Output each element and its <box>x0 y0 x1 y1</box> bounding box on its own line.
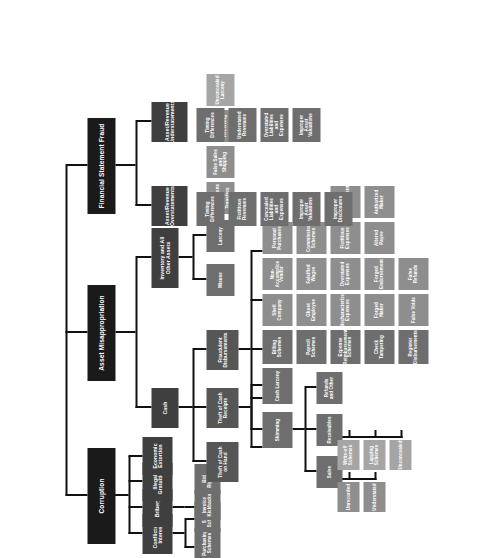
diagram-stage: Corruption Asset Misappropriation Financ… <box>0 0 479 558</box>
edge-fd-c4 <box>250 299 262 301</box>
leaf-commission-schemes[interactable]: Commission Schemes <box>296 222 326 254</box>
edge-tocr-stem <box>238 406 250 408</box>
leaf-os-fictitious-revenues[interactable]: Fictitious Revenues <box>228 192 256 226</box>
edge-cash-c2 <box>192 406 206 408</box>
edge-inv-bar <box>192 236 194 280</box>
category-corruption[interactable]: Corruption <box>87 448 115 544</box>
leaf-altered-payee[interactable]: Altered Payee <box>364 222 394 254</box>
edge-corr-c1 <box>128 532 142 534</box>
leaf-us-improper-asset-valuations[interactable]: Improper Asset Valuations <box>292 108 320 142</box>
edge-coi-l1 <box>184 546 194 548</box>
leaf-false-refunds[interactable]: False Refunds <box>398 258 428 290</box>
leaf-sales-unrecorded[interactable]: Unrecorded <box>337 482 359 512</box>
node-billing-schemes-main[interactable]: Billing Schemes <box>262 330 292 364</box>
edge-fd-c1 <box>250 446 262 448</box>
edge-skim-stem <box>292 428 304 430</box>
edge-fd-c3 <box>250 348 262 350</box>
edge-skim-c2 <box>304 428 316 430</box>
node-register-disbursements[interactable]: Register Disbursements <box>398 330 428 364</box>
node-cash-larceny[interactable]: Cash Larceny <box>262 368 292 404</box>
edge-inv-stem <box>178 256 192 258</box>
edge-am-inv <box>135 256 151 258</box>
leaf-forged-endorsement[interactable]: Forged Endorsement <box>364 258 394 290</box>
leaf-fictitious-expenses[interactable]: Fictitious Expenses <box>330 222 360 254</box>
leaf-os-timing-differences[interactable]: Timing Differences <box>196 192 224 226</box>
node-theft-of-cash-on-hand[interactable]: Theft of Cash on Hand <box>206 442 238 482</box>
leaf-false-voids[interactable]: False Voids <box>398 294 428 326</box>
edge-coi-stem <box>172 532 184 534</box>
edge-bribery-l1 <box>184 506 194 508</box>
leaf-us-understated-revenues[interactable]: Understated Revenues <box>228 108 256 142</box>
leaf-sales-understated[interactable]: Understated <box>363 482 385 512</box>
leaf-personal-purchases[interactable]: Personal Purchases <box>262 222 292 254</box>
edge-recv-link1 <box>348 430 350 438</box>
node-asset-revenue-understatements[interactable]: Asset/Revenue Understatements <box>151 102 187 142</box>
category-asset-misappropriation[interactable]: Asset Misappropriation <box>87 285 115 381</box>
edge-corr-c4 <box>128 455 142 457</box>
leaf-purchasing-schemes[interactable]: Purchasing Schemes <box>194 528 220 558</box>
edge-fd-c5 <box>250 250 262 252</box>
edge-am-stem2 <box>115 331 135 333</box>
edge-assetmis-stem <box>65 331 87 333</box>
edge-recv-link2 <box>374 430 376 438</box>
leaf-non-accomplice-vendor[interactable]: Non-Accomplice Vendor <box>262 258 292 290</box>
category-financial-statement-fraud[interactable]: Financial Statement Fraud <box>87 118 115 214</box>
edge-fsf-stem <box>65 164 87 166</box>
edge-recv-link3 <box>400 430 402 438</box>
node-asset-revenue-overstatements[interactable]: Asset/Revenue Overstatements <box>151 186 187 226</box>
edge-fd-stem <box>238 348 250 350</box>
edge-fd-c2 <box>250 397 262 399</box>
edge-skim-c1 <box>304 470 316 472</box>
leaf-authorized-maker[interactable]: Authorized Maker <box>364 186 394 218</box>
fraud-tree-canvas: Corruption Asset Misappropriation Financ… <box>0 0 479 558</box>
leaf-overstated-expenses[interactable]: Overstated Expenses <box>330 258 360 290</box>
edge-fsf-c2 <box>135 120 151 122</box>
edge-cash-c3 <box>192 348 206 350</box>
edge-inv-c2 <box>192 234 206 236</box>
edge-corr-bar <box>128 456 130 534</box>
edge-skim-c3 <box>304 386 316 388</box>
leaf-invoice-kickbacks[interactable]: Invoice Kickbacks <box>194 490 220 520</box>
node-fraudulent-disbursements[interactable]: Fraudulent Disbursements <box>206 330 238 370</box>
edge-fsf-c1 <box>135 204 151 206</box>
leaf-mischaracterized-expenses[interactable]: Mischaracterized Expenses <box>330 294 360 326</box>
edge-coi-l2 <box>184 518 194 520</box>
edge-fd-bar <box>250 252 252 448</box>
node-check-tampering[interactable]: Check Tampering <box>364 330 394 364</box>
leaf-ghost-employee[interactable]: Ghost Employee <box>296 294 326 326</box>
edge-bribery-stem <box>172 506 184 508</box>
leaf-us-overstated-liabilities-and-expenses[interactable]: Overstated Liabilities and Expenses <box>260 108 288 142</box>
leaf-os-concealed-liabilities-and-expenses[interactable]: Concealed Liabilities and Expenses <box>260 192 288 226</box>
node-expense-reimbursement-schemes[interactable]: Expense Reimbursement Schemes <box>330 330 360 364</box>
leaf-unconcealed-larceny[interactable]: Unconcealed Larceny <box>206 74 234 106</box>
node-economic-extortion[interactable]: Economic Extortion <box>142 437 172 475</box>
leaf-write-off-schemes[interactable]: Write-off Schemes <box>337 440 359 470</box>
edge-am-cash <box>135 406 151 408</box>
edge-am-bar <box>135 258 137 408</box>
edge-inv-c1 <box>192 278 206 280</box>
leaf-unconcealed[interactable]: Unconcealed <box>389 440 411 470</box>
node-skimming[interactable]: Skimming <box>262 412 292 448</box>
node-cash[interactable]: Cash <box>151 388 178 428</box>
edge-fsf-stem2 <box>115 164 135 166</box>
edge-fsf-bar <box>135 122 137 206</box>
edge-cash-stem <box>178 406 192 408</box>
node-theft-of-cash-receipts[interactable]: Theft of Cash Receipts <box>206 388 238 428</box>
node-refunds-and-other[interactable]: Refunds and Other <box>316 372 342 404</box>
leaf-os-improper-disclosures[interactable]: Improper Disclosures <box>324 192 352 226</box>
leaf-forged-maker[interactable]: Forged Maker <box>364 294 394 326</box>
node-inventory-and-all-other-assets[interactable]: Inventory and All Other Assets <box>151 228 178 288</box>
leaf-us-timing-differences[interactable]: Timing Differences <box>196 108 224 142</box>
edge-cash-c1 <box>192 460 206 462</box>
edge-skim-bar <box>304 388 306 472</box>
leaf-false-sales-and-shipping[interactable]: False Sales and Shipping <box>206 146 234 178</box>
node-misuse[interactable]: Misuse <box>206 264 234 296</box>
edge-corr-c2 <box>128 506 142 508</box>
edge-coi-bar <box>184 520 186 548</box>
edge-corr-c3 <box>128 480 142 482</box>
leaf-falsified-wages[interactable]: Falsified Wages <box>296 258 326 290</box>
node-payroll-schemes[interactable]: Payroll Schemes <box>296 330 326 364</box>
leaf-shell-company[interactable]: Shell Company <box>262 294 292 326</box>
leaf-os-improper-asset-valuations[interactable]: Improper Asset Valuations <box>292 192 320 226</box>
leaf-lapping-schemes[interactable]: Lapping Schemes <box>363 440 385 470</box>
